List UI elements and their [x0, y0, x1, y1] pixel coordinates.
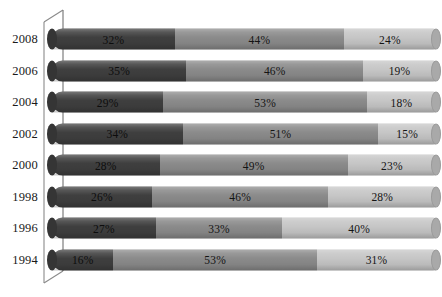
bar-segment-1994-series3[interactable]: 31%: [317, 249, 436, 270]
bar-right-cap-icon: [431, 249, 441, 270]
value-label: 15%: [396, 128, 418, 140]
value-label: 26%: [91, 191, 113, 203]
value-label: 28%: [371, 191, 393, 203]
bar-segment-2002-series3[interactable]: 15%: [378, 123, 436, 144]
bar-left-cap-icon: [47, 218, 57, 239]
stacked-bar-1996[interactable]: 27%33%40%: [52, 218, 436, 239]
value-label: 16%: [72, 254, 94, 266]
bar-left-cap-icon: [47, 60, 57, 81]
value-label: 24%: [379, 33, 401, 45]
value-label: 44%: [249, 33, 271, 45]
bar-row: 199416%53%31%: [0, 247, 442, 273]
bar-row: 200234%51%15%: [0, 121, 442, 147]
bar-segment-1994-series1[interactable]: 16%: [52, 249, 113, 270]
bar-segment-2000-series3[interactable]: 23%: [348, 155, 436, 176]
bar-segment-2004-series3[interactable]: 18%: [367, 92, 436, 113]
value-label: 19%: [389, 65, 411, 77]
value-label: 49%: [243, 159, 265, 171]
bar-row: 200635%46%19%: [0, 58, 442, 84]
value-label: 40%: [348, 222, 370, 234]
bar-row: 200028%49%23%: [0, 152, 442, 178]
bar-segment-2006-series2[interactable]: 46%: [186, 60, 363, 81]
bar-left-cap-icon: [47, 92, 57, 113]
bar-segment-2002-series2[interactable]: 51%: [183, 123, 379, 144]
bar-left-cap-icon: [47, 123, 57, 144]
bar-segment-1998-series2[interactable]: 46%: [152, 186, 329, 207]
bar-segment-2000-series2[interactable]: 49%: [160, 155, 348, 176]
bar-left-cap-icon: [47, 186, 57, 207]
stacked-bar-2002[interactable]: 34%51%15%: [52, 123, 436, 144]
stacked-bar-chart: 200832%44%24%200635%46%19%200429%53%18%2…: [0, 0, 442, 297]
stacked-bar-2006[interactable]: 35%46%19%: [52, 60, 436, 81]
bar-segment-1996-series3[interactable]: 40%: [282, 218, 436, 239]
value-label: 46%: [229, 191, 251, 203]
value-label: 34%: [106, 128, 128, 140]
value-label: 18%: [391, 96, 413, 108]
category-label-1998: 1998: [2, 189, 38, 204]
bar-right-cap-icon: [431, 186, 441, 207]
value-label: 33%: [208, 222, 230, 234]
category-label-2000: 2000: [2, 158, 38, 173]
plot-area: 200832%44%24%200635%46%19%200429%53%18%2…: [0, 0, 442, 297]
bar-segment-1998-series1[interactable]: 26%: [52, 186, 152, 207]
value-label: 29%: [97, 96, 119, 108]
bar-segment-2008-series1[interactable]: 32%: [52, 29, 175, 50]
category-label-2002: 2002: [2, 126, 38, 141]
value-label: 35%: [108, 65, 130, 77]
category-label-2008: 2008: [2, 32, 38, 47]
bar-row: 199826%46%28%: [0, 184, 442, 210]
bar-segment-2002-series1[interactable]: 34%: [52, 123, 183, 144]
bar-right-cap-icon: [431, 218, 441, 239]
bar-segment-2008-series3[interactable]: 24%: [344, 29, 436, 50]
bar-segment-2000-series1[interactable]: 28%: [52, 155, 160, 176]
bar-right-cap-icon: [431, 60, 441, 81]
value-label: 23%: [381, 159, 403, 171]
bar-row: 200832%44%24%: [0, 26, 442, 52]
category-label-2004: 2004: [2, 95, 38, 110]
bar-right-cap-icon: [431, 92, 441, 113]
bar-segment-2006-series3[interactable]: 19%: [363, 60, 436, 81]
bar-right-cap-icon: [431, 123, 441, 144]
value-label: 46%: [264, 65, 286, 77]
category-label-1996: 1996: [2, 221, 38, 236]
bar-row: 199627%33%40%: [0, 215, 442, 241]
bar-left-cap-icon: [47, 29, 57, 50]
category-label-2006: 2006: [2, 63, 38, 78]
category-label-1994: 1994: [2, 252, 38, 267]
value-label: 53%: [254, 96, 276, 108]
bar-segment-1998-series3[interactable]: 28%: [328, 186, 436, 207]
value-label: 53%: [204, 254, 226, 266]
stacked-bar-2000[interactable]: 28%49%23%: [52, 155, 436, 176]
bar-segment-1996-series1[interactable]: 27%: [52, 218, 156, 239]
value-label: 27%: [93, 222, 115, 234]
bar-left-cap-icon: [47, 249, 57, 270]
bar-segment-2004-series2[interactable]: 53%: [163, 92, 367, 113]
bar-segment-1996-series2[interactable]: 33%: [156, 218, 283, 239]
bar-segment-1994-series2[interactable]: 53%: [113, 249, 317, 270]
bar-segment-2008-series2[interactable]: 44%: [175, 29, 344, 50]
stacked-bar-2008[interactable]: 32%44%24%: [52, 29, 436, 50]
stacked-bar-1994[interactable]: 16%53%31%: [52, 249, 436, 270]
bar-segment-2004-series1[interactable]: 29%: [52, 92, 163, 113]
value-label: 51%: [270, 128, 292, 140]
value-label: 31%: [366, 254, 388, 266]
bar-right-cap-icon: [431, 29, 441, 50]
stacked-bar-1998[interactable]: 26%46%28%: [52, 186, 436, 207]
stacked-bar-2004[interactable]: 29%53%18%: [52, 92, 436, 113]
value-label: 28%: [95, 159, 117, 171]
bar-segment-2006-series1[interactable]: 35%: [52, 60, 186, 81]
bar-row: 200429%53%18%: [0, 89, 442, 115]
bar-right-cap-icon: [431, 155, 441, 176]
value-label: 32%: [103, 33, 125, 45]
bar-left-cap-icon: [47, 155, 57, 176]
